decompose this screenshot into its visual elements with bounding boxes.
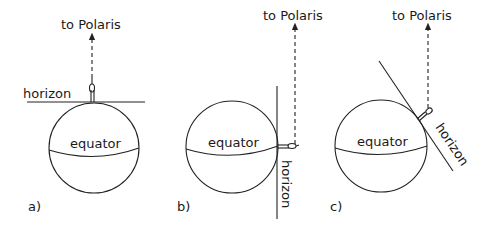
panel-a: to Polaris horizon equator a) <box>23 17 145 214</box>
equator-label: equator <box>70 136 122 151</box>
horizon-label: horizon <box>433 120 472 168</box>
panel-b: to Polaris equator horizon b) <box>177 8 323 219</box>
equator-label: equator <box>357 134 409 149</box>
panel-label-a: a) <box>28 199 41 214</box>
horizon-label: horizon <box>279 160 294 208</box>
panel-label-b: b) <box>177 199 190 214</box>
observer-icon <box>417 107 433 121</box>
equator-label: equator <box>208 135 260 150</box>
polaris-altitude-diagram: to Polaris horizon equator a) to Polaris… <box>0 0 488 229</box>
observer-icon <box>90 78 95 102</box>
horizon-label: horizon <box>23 86 71 101</box>
panel-label-c: c) <box>330 199 342 214</box>
observer-icon <box>277 144 299 149</box>
to-polaris-label: to Polaris <box>263 8 323 23</box>
to-polaris-label: to Polaris <box>61 17 121 32</box>
to-polaris-label: to Polaris <box>392 8 452 23</box>
panel-c: to Polaris equator horizon c) <box>330 8 472 214</box>
